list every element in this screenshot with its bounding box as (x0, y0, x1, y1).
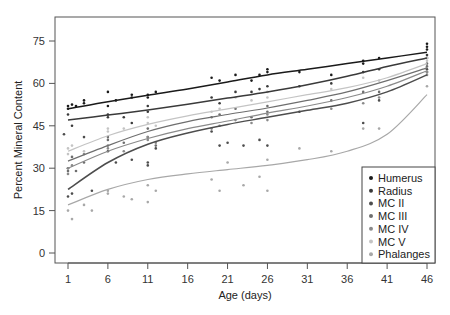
data-point (378, 91, 381, 94)
data-point (131, 93, 134, 96)
data-point (426, 43, 429, 46)
data-point (242, 184, 245, 187)
legend-label: Humerus (378, 172, 423, 184)
data-point (83, 102, 86, 105)
data-point (426, 85, 429, 88)
data-point (107, 147, 110, 150)
data-point (71, 156, 74, 159)
data-point (131, 122, 134, 125)
data-point (155, 144, 158, 147)
legend: HumerusRadiusMC IIMC IIIMC IVMC VPhalang… (362, 167, 435, 263)
legend-label: Phalanges (378, 248, 430, 260)
x-tick-label: 31 (301, 273, 313, 285)
legend-label: Radius (378, 185, 413, 197)
data-point (83, 99, 86, 102)
data-point (362, 102, 365, 105)
data-point (330, 74, 333, 77)
legend-marker (369, 176, 373, 180)
data-point (266, 144, 269, 147)
data-point (71, 192, 74, 195)
data-point (115, 161, 118, 164)
data-point (123, 142, 126, 145)
legend-label: MC II (378, 197, 404, 209)
data-point (426, 48, 429, 51)
data-point (426, 45, 429, 48)
x-tick-label: 11 (142, 273, 153, 285)
legend-marker (369, 240, 373, 244)
data-point (258, 139, 261, 142)
data-point (155, 190, 158, 193)
data-point (131, 198, 134, 201)
data-point (266, 119, 269, 122)
data-point (91, 209, 94, 212)
data-point (330, 108, 333, 111)
data-point (378, 127, 381, 130)
data-point (362, 127, 365, 130)
data-point (67, 153, 70, 156)
data-point (123, 127, 126, 130)
x-tick-label: 16 (182, 273, 194, 285)
y-tick-label: 15 (33, 205, 45, 217)
data-point (378, 99, 381, 102)
data-point (67, 147, 70, 150)
legend-item-humerus: Humerus (369, 172, 423, 184)
data-point (330, 150, 333, 153)
data-point (426, 65, 429, 68)
data-point (226, 142, 229, 145)
legend-marker (369, 189, 373, 193)
data-point (210, 130, 213, 133)
data-point (378, 96, 381, 99)
data-point (266, 85, 269, 88)
legend-marker (369, 227, 373, 231)
y-axis-title: Percent Mineral Content (12, 81, 24, 200)
x-tick-label: 6 (105, 273, 111, 285)
data-point (107, 139, 110, 142)
data-point (258, 175, 261, 178)
data-point (147, 184, 150, 187)
data-point (107, 127, 110, 130)
data-point (362, 122, 365, 125)
data-point (266, 190, 269, 193)
data-point (147, 105, 150, 108)
legend-marker (369, 201, 373, 205)
data-point (147, 96, 150, 99)
data-point (210, 178, 213, 181)
legend-label: MC III (378, 210, 407, 222)
data-point (67, 195, 70, 198)
data-point (147, 161, 150, 164)
data-point (266, 158, 269, 161)
data-point (123, 195, 126, 198)
data-point (67, 113, 70, 116)
data-point (266, 68, 269, 71)
legend-label: MC V (378, 236, 406, 248)
data-point (107, 192, 110, 195)
y-tick-label: 45 (33, 120, 45, 132)
data-point (218, 79, 221, 82)
data-point (218, 190, 221, 193)
data-point (75, 170, 78, 173)
data-point (67, 173, 70, 176)
data-point (426, 54, 429, 57)
data-point (258, 88, 261, 91)
x-tick-label: 41 (381, 273, 393, 285)
x-tick-label: 36 (341, 273, 353, 285)
data-point (67, 209, 70, 212)
y-tick-label: 30 (33, 162, 45, 174)
data-point (330, 82, 333, 85)
data-point (155, 91, 158, 94)
data-point (362, 62, 365, 65)
legend-marker (369, 214, 373, 218)
data-point (155, 125, 158, 128)
data-point (147, 201, 150, 204)
data-point (234, 74, 237, 77)
data-point (63, 133, 66, 136)
data-point (91, 190, 94, 193)
data-point (250, 79, 253, 82)
data-point (107, 116, 110, 119)
data-point (71, 103, 74, 106)
data-point (131, 158, 134, 161)
data-point (234, 91, 237, 94)
data-point (218, 144, 221, 147)
y-tick-label: 0 (39, 247, 45, 259)
data-point (83, 136, 86, 139)
